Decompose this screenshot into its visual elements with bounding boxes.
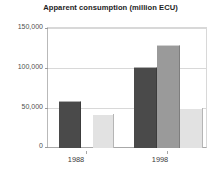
bar-1998-series-3 [180,108,203,148]
bar-shade-right [113,114,114,148]
bar-1988-series-1 [59,101,81,148]
chart-title: Apparent consumption (million ECU) [0,3,221,12]
bar-highlight-top [93,114,114,115]
bar-highlight-top [134,67,157,68]
ytick-label-0: 0 [0,142,43,149]
bar-highlight-top [157,45,180,46]
ytick-label-150000: 150,000 [0,23,43,30]
x-axis-labels: 1988 1998 [0,151,221,167]
chart-container: Apparent consumption (million ECU) 150,0… [0,0,221,178]
bars-layer [48,27,207,148]
bar-shade-right [202,108,203,148]
x-axis-label-1988: 1988 [56,155,96,164]
bar-1998-series-1 [134,67,157,148]
ytick-label-100000: 100,000 [0,63,43,70]
x-axis-label-1998: 1998 [140,155,180,164]
bar-shade-right [80,101,81,148]
xtick-1988 [86,151,87,154]
bar-highlight-top [59,101,81,102]
bar-1998-series-2 [157,45,180,148]
bar-highlight-top [180,108,203,109]
bar-1988-series-3 [93,114,114,148]
ytick-label-50000: 50,000 [0,103,43,110]
xtick-1998 [167,151,168,154]
